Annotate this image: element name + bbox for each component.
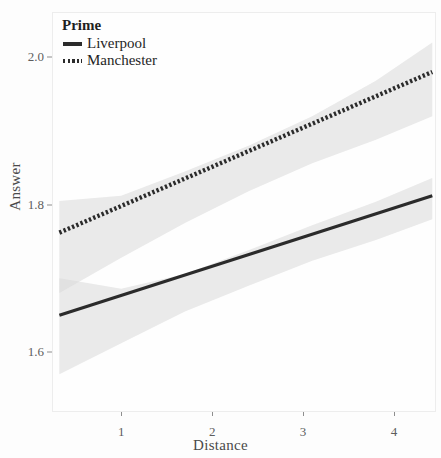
- y-tick-label: 2.0: [0, 49, 44, 65]
- plot-panel: [52, 12, 436, 412]
- x-tick-label: 3: [288, 424, 318, 440]
- y-tick-label: 1.8: [0, 197, 44, 213]
- legend-item-liverpool: Liverpool: [62, 35, 157, 52]
- legend-line-dotted-icon: [62, 54, 84, 68]
- legend-item-manchester: Manchester: [62, 52, 157, 69]
- plot-area: [53, 13, 435, 411]
- y-tick-label: 1.6: [0, 344, 44, 360]
- x-tick-label: 1: [106, 424, 136, 440]
- legend-title: Prime: [62, 16, 157, 34]
- x-tick-label: 4: [379, 424, 409, 440]
- y-axis-title: Answer: [7, 132, 24, 242]
- chart-figure: Answer Distance 1.61.82.0 1234 Prime Liv…: [0, 0, 441, 458]
- legend-label: Manchester: [87, 52, 157, 69]
- x-tick-label: 2: [197, 424, 227, 440]
- legend: Prime Liverpool Manchester: [62, 16, 157, 69]
- legend-label: Liverpool: [87, 35, 146, 52]
- legend-line-solid-icon: [62, 37, 84, 51]
